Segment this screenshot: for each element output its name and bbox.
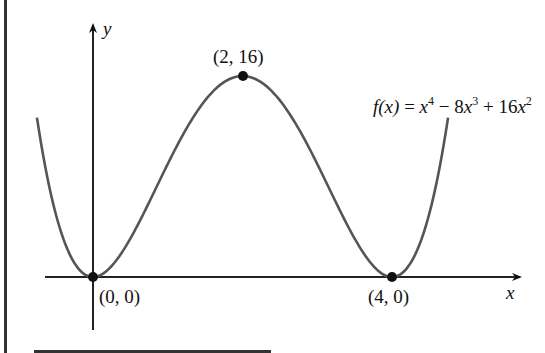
point-max-label: (2, 16) — [213, 46, 264, 68]
x-axis-label: x — [506, 282, 514, 304]
point-root-label: (4, 0) — [368, 286, 409, 308]
function-label: f(x) = x4 − 8x3 + 16x2 — [373, 96, 532, 118]
point-origin-marker — [88, 272, 98, 282]
fn-t3: + 16 — [478, 96, 517, 117]
fn-e3: 2 — [526, 94, 532, 108]
fn-eq: = — [399, 96, 419, 117]
fn-x1: x — [420, 96, 428, 117]
function-plot — [0, 0, 545, 353]
point-max-marker — [238, 71, 248, 81]
point-root-marker — [387, 272, 397, 282]
fn-lhs: f(x) — [373, 96, 399, 117]
fn-t2: − 8 — [434, 96, 464, 117]
fn-x3: x — [517, 96, 525, 117]
fn-x2: x — [464, 96, 472, 117]
y-axis-label: y — [103, 18, 111, 40]
point-origin-label: (0, 0) — [99, 286, 140, 308]
